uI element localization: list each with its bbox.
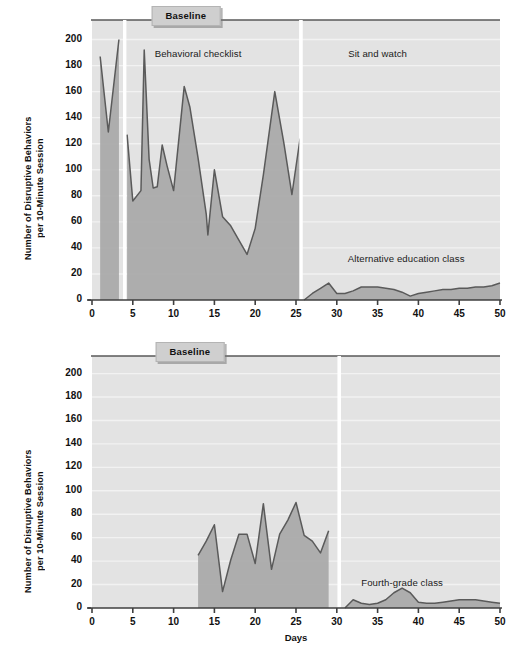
y-axis-title-bottom: Number of Disruptive Behaviors per 10-Mi… [22,431,46,611]
y-tick-label: 40 [52,554,82,565]
y-tick-label: 60 [52,531,82,542]
bottom-plot-canvas [0,331,514,663]
x-axis-title: Days [256,632,336,643]
x-tick-label: 45 [447,616,471,627]
phase-label-sit-and-watch: Sit and watch [348,47,407,58]
x-tick-label: 45 [447,308,471,319]
x-tick-label: 50 [488,308,512,319]
y-tick-label: 120 [52,137,82,148]
phase-badge-baseline-bottom: Baseline [156,342,225,362]
y-tick-label: 180 [52,59,82,70]
y-axis-title-top: Number of Disruptive Behaviors per 10-Mi… [22,98,46,278]
y-tick-label: 140 [52,437,82,448]
x-tick-label: 15 [202,308,226,319]
y-tick-label: 20 [52,578,82,589]
figure-container: Number of Disruptive Behaviors per 10-Mi… [0,0,514,663]
x-tick-label: 10 [162,308,186,319]
phase-label-fourth-grade-class: Fourth-grade class [361,577,443,588]
x-tick-label: 10 [162,616,186,627]
x-tick-label: 35 [366,308,390,319]
x-tick-label: 40 [406,616,430,627]
y-tick-label: 160 [52,413,82,424]
phase-label-alternative-education-class: Alternative education class [348,253,465,264]
x-tick-label: 30 [325,308,349,319]
x-tick-label: 20 [243,308,267,319]
y-tick-label: 20 [52,267,82,278]
x-tick-label: 25 [284,308,308,319]
y-tick-label: 180 [52,390,82,401]
x-tick-label: 20 [243,616,267,627]
chart-panel-bottom: Number of Disruptive Behaviors per 10-Mi… [0,331,514,663]
y-tick-label: 60 [52,215,82,226]
x-tick-label: 40 [406,308,430,319]
phase-badge-baseline-top: Baseline [151,6,220,26]
x-tick-label: 0 [80,616,104,627]
y-tick-label: 140 [52,111,82,122]
x-tick-label: 25 [284,616,308,627]
x-tick-label: 15 [202,616,226,627]
phase-label-behavioral-checklist: Behavioral checklist [155,47,242,58]
x-tick-label: 0 [80,308,104,319]
y-tick-label: 200 [52,33,82,44]
x-tick-label: 35 [366,616,390,627]
y-tick-label: 100 [52,484,82,495]
y-tick-label: 120 [52,460,82,471]
x-tick-label: 50 [488,616,512,627]
x-tick-label: 5 [121,308,145,319]
y-tick-label: 0 [52,601,82,612]
y-tick-label: 80 [52,189,82,200]
y-tick-label: 100 [52,163,82,174]
y-tick-label: 160 [52,85,82,96]
x-tick-label: 30 [325,616,349,627]
y-tick-label: 40 [52,241,82,252]
chart-panel-top: Number of Disruptive Behaviors per 10-Mi… [0,0,514,331]
x-tick-label: 5 [121,616,145,627]
y-tick-label: 200 [52,367,82,378]
y-tick-label: 0 [52,293,82,304]
y-tick-label: 80 [52,507,82,518]
